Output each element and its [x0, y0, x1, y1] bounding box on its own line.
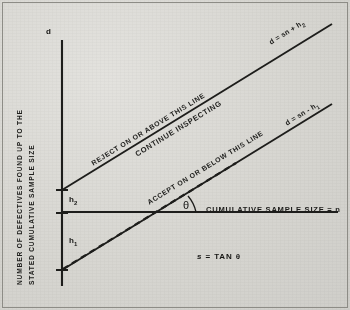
h2-label: h2: [69, 195, 77, 206]
h1-label: h1: [69, 236, 77, 247]
x-axis-label: CUMULATIVE SAMPLE SIZE = n: [206, 205, 341, 214]
slope-note: s = TAN θ: [197, 252, 241, 261]
y-axis-label-line2: STATED CUMULATIVE SAMPLE SIZE: [28, 145, 35, 285]
y-axis-label-line1: NUMBER OF DEFECTIVES FOUND UP TO THE: [16, 109, 23, 285]
upper-decision-line: [62, 24, 332, 190]
theta-angle-arc: [188, 196, 196, 212]
y-axis-symbol: d: [46, 27, 51, 36]
chart-canvas: [0, 0, 350, 310]
theta-symbol: θ: [183, 199, 189, 211]
